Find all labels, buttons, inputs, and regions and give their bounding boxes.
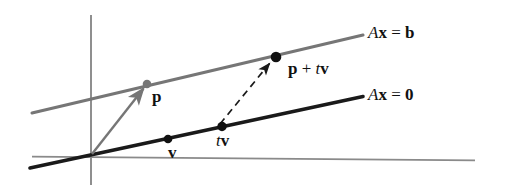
point-p-plus-tv bbox=[271, 52, 282, 63]
label-ax-equals-zero: Ax = 0 bbox=[368, 86, 413, 103]
label-ax-0-rhs: 0 bbox=[405, 85, 414, 104]
label-tv: tv bbox=[216, 132, 229, 149]
label-ax-b-equals: = bbox=[387, 23, 405, 42]
point-p bbox=[143, 80, 152, 89]
translation-arrow bbox=[220, 64, 270, 125]
label-ax-b-matrix: A bbox=[368, 23, 378, 42]
diagram-svg bbox=[0, 0, 506, 194]
point-v bbox=[164, 135, 173, 144]
label-p: p bbox=[152, 88, 161, 105]
diagram-canvas: Ax = b Ax = 0 p + tv p tv v bbox=[0, 0, 506, 194]
label-tv-vector: v bbox=[221, 131, 230, 150]
axis-horizontal bbox=[32, 157, 475, 161]
label-ax-0-vector: x bbox=[378, 85, 387, 104]
label-ax-0-matrix: A bbox=[368, 85, 378, 104]
label-ax-equals-b: Ax = b bbox=[368, 24, 414, 41]
label-p-plus-tv-vector: v bbox=[320, 59, 329, 78]
label-p-plus-tv: p + tv bbox=[288, 60, 329, 77]
point-tv bbox=[217, 122, 226, 131]
label-ax-0-equals: = bbox=[387, 85, 405, 104]
label-ax-b-vector: x bbox=[378, 23, 387, 42]
label-p-plus-tv-plus: + bbox=[297, 59, 315, 78]
label-v: v bbox=[168, 144, 177, 161]
label-ax-b-rhs: b bbox=[405, 23, 414, 42]
